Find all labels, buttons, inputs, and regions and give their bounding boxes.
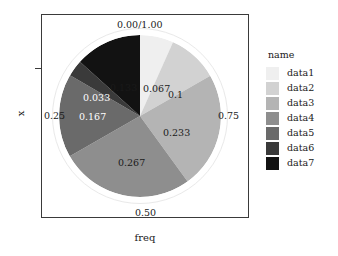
legend-item-data5[interactable]: data5 bbox=[266, 126, 338, 141]
slice-label-data5: 0.167 bbox=[79, 112, 106, 122]
legend-swatch-data6 bbox=[266, 142, 279, 155]
axis-tick-label-right: 0.75 bbox=[218, 111, 239, 121]
chart-figure: x freq 0.067 0.1 0.233 0.267 0.167 0.033… bbox=[0, 0, 338, 256]
y-axis-title: x bbox=[15, 104, 26, 124]
legend-label-data4: data4 bbox=[287, 113, 314, 123]
legend-item-data1[interactable]: data1 bbox=[266, 66, 338, 81]
slice-label-data1: 0.067 bbox=[143, 84, 170, 94]
legend-label-data5: data5 bbox=[287, 128, 314, 138]
slice-label-data3: 0.233 bbox=[163, 128, 190, 138]
legend-swatch-data5 bbox=[266, 127, 279, 140]
legend-label-data7: data7 bbox=[287, 158, 314, 168]
slice-label-data6: 0.033 bbox=[83, 93, 110, 103]
slice-label-data7: 0.133 bbox=[110, 83, 137, 93]
axis-tick-label-bottom: 0.50 bbox=[135, 208, 156, 218]
legend-label-data3: data3 bbox=[287, 98, 314, 108]
legend-item-data3[interactable]: data3 bbox=[266, 96, 338, 111]
y-axis-tick-mark bbox=[35, 68, 41, 69]
legend-swatch-data7 bbox=[266, 157, 279, 170]
legend-label-data2: data2 bbox=[287, 83, 314, 93]
legend-swatch-data4 bbox=[266, 112, 279, 125]
legend-item-data6[interactable]: data6 bbox=[266, 141, 338, 156]
slice-label-data2: 0.1 bbox=[168, 90, 183, 100]
axis-tick-label-top: 0.00/1.00 bbox=[117, 20, 163, 30]
axis-tick-label-left: 0.25 bbox=[44, 111, 65, 121]
legend: name data1data2data3data4data5data6data7 bbox=[266, 50, 338, 171]
x-axis-title: freq bbox=[100, 232, 190, 243]
legend-items: data1data2data3data4data5data6data7 bbox=[266, 66, 338, 171]
legend-item-data4[interactable]: data4 bbox=[266, 111, 338, 126]
legend-item-data2[interactable]: data2 bbox=[266, 81, 338, 96]
legend-swatch-data2 bbox=[266, 82, 279, 95]
slice-label-data4: 0.267 bbox=[118, 158, 145, 168]
legend-swatch-data1 bbox=[266, 67, 279, 80]
legend-label-data1: data1 bbox=[287, 68, 314, 78]
legend-swatch-data3 bbox=[266, 97, 279, 110]
legend-item-data7[interactable]: data7 bbox=[266, 156, 338, 171]
legend-label-data6: data6 bbox=[287, 143, 314, 153]
legend-title: name bbox=[268, 50, 338, 60]
